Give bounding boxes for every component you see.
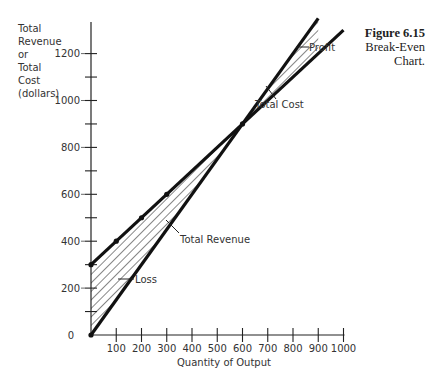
y-tick-label: 200	[61, 283, 80, 294]
figure-number: Figure 6.15	[365, 26, 425, 40]
y-axis-label-line: or	[18, 48, 62, 61]
data-point	[114, 239, 119, 244]
total-revenue-label: Total Revenue	[179, 234, 250, 245]
x-tick-label: 500	[208, 343, 227, 354]
x-tick-label: 100	[107, 343, 126, 354]
y-axis-label-line: Cost	[18, 74, 62, 87]
y-tick-label: 400	[61, 236, 80, 247]
x-tick-label: 800	[283, 343, 302, 354]
data-point	[88, 262, 93, 267]
total-revenue-line	[91, 18, 318, 335]
x-tick-label: 1000	[331, 343, 356, 354]
data-point	[240, 121, 245, 126]
total-cost-label: Total Cost	[254, 99, 304, 110]
x-tick-label: 300	[157, 343, 176, 354]
x-axis-label: Quantity of Output	[177, 357, 271, 368]
caption-line-1: Break-Even	[365, 40, 425, 54]
y-axis-label-line: Total	[18, 22, 62, 35]
total-cost-line	[91, 30, 344, 265]
data-point	[164, 192, 169, 197]
figure-caption: Figure 6.15 Break-Even Chart.	[365, 26, 425, 68]
loss-label: Loss	[135, 274, 157, 285]
y-axis-label-line: (dollars)	[18, 87, 62, 100]
x-tick-label: 200	[132, 343, 151, 354]
caption-line-2: Chart.	[365, 54, 425, 68]
data-point	[88, 332, 93, 337]
x-tick-label: 700	[258, 343, 277, 354]
x-tick-label: 600	[233, 343, 252, 354]
x-tick-label: 900	[309, 343, 328, 354]
x-tick-label: 400	[182, 343, 201, 354]
y-tick-label: 600	[61, 189, 80, 200]
data-point	[139, 215, 144, 220]
y-axis-label: TotalRevenueorTotalCost(dollars)	[18, 22, 62, 100]
y-tick-label: 0	[68, 330, 74, 341]
profit-label: Profit	[309, 42, 335, 53]
y-axis-label-line: Revenue	[18, 35, 62, 48]
y-tick-label: 800	[61, 142, 80, 153]
y-axis-label-line: Total	[18, 61, 62, 74]
